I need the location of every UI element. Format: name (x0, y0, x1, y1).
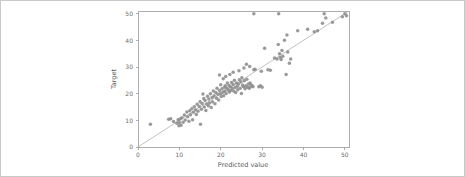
data-point (191, 118, 195, 122)
data-point (180, 116, 184, 120)
data-point (238, 87, 242, 91)
y-tick-label: 30 (125, 63, 133, 70)
data-point (239, 80, 243, 84)
data-point (234, 91, 238, 95)
data-point (248, 65, 252, 69)
data-point (288, 62, 292, 65)
data-point (202, 105, 206, 109)
figure-frame: 0102030405001020304050 Predicted value T… (0, 0, 465, 177)
data-point (285, 33, 289, 37)
y-tick-label: 40 (125, 37, 133, 44)
x-tick-label: 0 (136, 151, 140, 158)
data-point (245, 63, 249, 66)
data-point (283, 39, 287, 43)
x-tick-label: 50 (341, 151, 349, 158)
data-point (183, 118, 187, 122)
data-point (172, 120, 176, 124)
data-point (200, 107, 204, 111)
data-point (209, 92, 213, 96)
data-point (277, 43, 281, 47)
data-point (207, 97, 211, 101)
y-tick-label: 50 (125, 10, 133, 17)
data-point (260, 86, 264, 90)
data-point (224, 92, 228, 96)
y-axis-title: Target (110, 68, 118, 90)
data-point (242, 66, 246, 70)
data-point (316, 29, 320, 33)
data-point (218, 73, 222, 77)
data-point (240, 92, 244, 96)
x-tick-label: 30 (258, 151, 266, 158)
data-point (231, 71, 235, 75)
data-point (240, 76, 244, 80)
data-point (324, 16, 328, 20)
data-point (263, 47, 267, 51)
data-point (312, 30, 316, 34)
data-point (149, 123, 153, 127)
data-point (306, 27, 310, 31)
x-tick-label: 20 (217, 151, 225, 158)
data-point (278, 52, 282, 56)
data-point (289, 57, 293, 61)
data-point (195, 113, 199, 117)
data-point (228, 73, 232, 77)
data-point (219, 83, 223, 87)
data-point (199, 123, 203, 127)
data-point (296, 29, 300, 33)
data-point (322, 12, 326, 16)
data-point (213, 102, 217, 106)
data-point (187, 119, 191, 123)
data-point (169, 117, 173, 121)
data-point (253, 67, 257, 71)
data-point (281, 55, 285, 59)
data-point (209, 106, 213, 110)
x-tick-label: 40 (300, 151, 308, 158)
data-point (251, 85, 255, 89)
y-tick-label: 0 (129, 143, 133, 150)
data-point (252, 12, 256, 16)
data-point (286, 50, 290, 54)
data-point (189, 113, 193, 117)
scatter-plot: 0102030405001020304050 Predicted value T… (1, 1, 465, 177)
y-tick-label: 20 (125, 90, 133, 97)
data-point (186, 115, 190, 119)
data-point (341, 15, 345, 19)
data-point (237, 69, 241, 73)
x-axis-title: Predicted value (218, 161, 268, 169)
data-point (321, 22, 325, 26)
data-point (183, 113, 187, 117)
data-point (203, 99, 207, 103)
data-point (231, 83, 235, 87)
data-point (204, 109, 208, 113)
data-point (196, 110, 200, 114)
y-tick-label: 10 (125, 117, 133, 124)
x-tick-label: 10 (176, 151, 184, 158)
data-point (224, 75, 228, 79)
data-point (284, 73, 288, 77)
data-point (217, 98, 221, 102)
data-point (275, 57, 279, 61)
data-point (201, 92, 205, 96)
data-point (260, 70, 264, 74)
data-point (179, 123, 183, 127)
data-point (345, 14, 349, 17)
data-point (280, 49, 284, 53)
data-point (269, 68, 273, 72)
data-point (245, 78, 249, 82)
data-point (200, 102, 204, 106)
data-point (279, 58, 283, 62)
data-point (331, 20, 335, 24)
data-point (277, 12, 281, 16)
